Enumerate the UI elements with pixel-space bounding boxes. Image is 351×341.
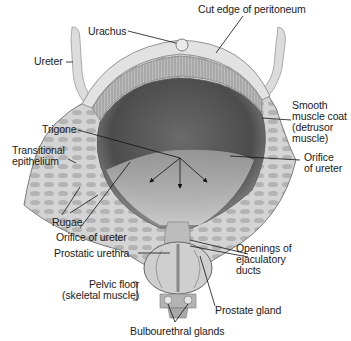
label-orifice-of-ureter-right: Orifice of ureter: [304, 152, 342, 174]
label-ureter: Ureter: [34, 56, 63, 67]
label-transitional-epithelium: Transitional epithelium: [12, 145, 65, 167]
label-urachus: Urachus: [88, 26, 126, 37]
label-smooth-muscle-coat: Smooth muscle coat (detrusor muscle): [292, 100, 347, 144]
label-cut-edge-peritoneum: Cut edge of peritoneum: [198, 4, 306, 15]
label-prostatic-urethra: Prostatic urethra: [54, 248, 129, 259]
ureter-right: [262, 27, 285, 96]
label-bulbourethral-glands: Bulbourethral glands: [130, 326, 224, 337]
urachus-shape: [176, 39, 188, 51]
label-orifice-of-ureter-left: Orifice of ureter: [56, 232, 127, 243]
label-pelvic-floor: Pelvic floor (skeletal muscle): [62, 279, 139, 301]
ureter-left: [71, 27, 92, 102]
label-trigone: Trigone: [42, 124, 77, 135]
label-rugae: Rugae: [52, 217, 82, 228]
label-openings-ejaculatory-ducts: Openings of ejaculatory ducts: [236, 243, 292, 276]
label-prostate-gland: Prostate gland: [215, 305, 281, 316]
bladder-diagram: [0, 0, 351, 341]
